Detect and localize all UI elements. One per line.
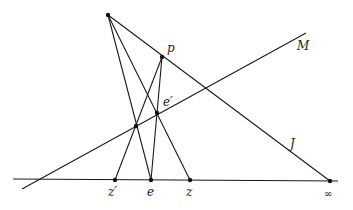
point-apex (106, 13, 110, 17)
line-apex-z (108, 15, 190, 180)
label-j: J (287, 137, 296, 151)
point-z (188, 178, 192, 182)
label-e: e (147, 185, 154, 199)
label-z-prime: z′ (107, 185, 117, 199)
point-q (134, 124, 138, 128)
baseline (13, 179, 338, 181)
point-infinity (328, 179, 332, 183)
label-z: z (185, 185, 193, 199)
diagram-canvas: p e′ z′ e z ∞ M J (0, 0, 353, 210)
label-e-prime: e′ (163, 95, 173, 109)
label-infinity: ∞ (324, 188, 332, 199)
point-p (160, 55, 164, 59)
line-p-e (151, 57, 162, 180)
point-z-prime (113, 178, 117, 182)
line-apex-e (108, 15, 151, 180)
point-e (149, 178, 153, 182)
point-e-prime (155, 111, 159, 115)
label-m: M (296, 39, 310, 53)
label-p: p (167, 41, 175, 55)
